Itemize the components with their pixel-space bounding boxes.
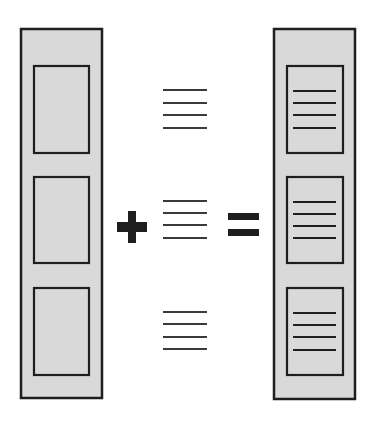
text-block-2 [163, 201, 207, 238]
empty-frame-2 [34, 177, 89, 263]
filled-frame-3 [287, 288, 343, 375]
empty-frame-1 [34, 66, 89, 153]
plus-vertical-bar [128, 211, 136, 243]
empty-frame-3 [34, 288, 89, 375]
composition-diagram [0, 0, 379, 422]
equals-operator-icon [228, 213, 259, 236]
filled-frame-1 [287, 66, 343, 153]
text-block-1 [163, 90, 207, 128]
equals-top-bar [228, 213, 259, 220]
text-block-3 [163, 312, 207, 349]
right-column-filled-frames [274, 29, 355, 399]
equals-bottom-bar [228, 229, 259, 236]
filled-frame-2 [287, 177, 343, 263]
left-column-empty-frames [21, 29, 102, 398]
text-line-blocks [163, 90, 207, 349]
plus-operator-icon [117, 211, 147, 243]
